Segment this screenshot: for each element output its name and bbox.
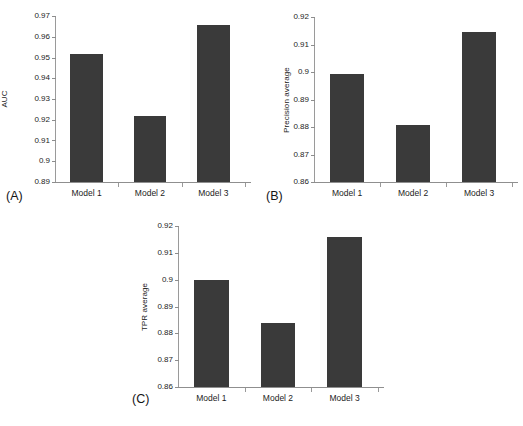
y-axis-tick-mark <box>175 333 179 334</box>
y-axis-tick-mark <box>52 140 56 141</box>
y-axis-tick-mark <box>311 45 315 46</box>
y-axis-tick-mark <box>52 120 56 121</box>
x-axis-tick-mark <box>378 388 379 392</box>
y-axis-title: Precision average <box>282 67 291 133</box>
bar <box>70 54 103 182</box>
x-axis-tick-mark <box>118 183 119 187</box>
y-axis-tick-label: 0.92 <box>293 13 309 21</box>
y-axis-tick-label: 0.87 <box>157 356 173 364</box>
y-axis-title: AUC <box>0 90 9 107</box>
y-axis-tick-label: 0.89 <box>157 303 173 311</box>
bar <box>197 25 230 182</box>
y-axis-tick-mark <box>52 182 56 183</box>
bar <box>194 280 229 387</box>
bar <box>134 116 167 182</box>
x-axis-line <box>314 182 518 183</box>
y-axis-tick-label: 0.94 <box>34 74 50 82</box>
y-axis-tick-label: 0.91 <box>293 41 309 49</box>
y-axis-tick-mark <box>311 155 315 156</box>
bar <box>330 74 364 182</box>
y-axis-tick-label: 0.9 <box>162 276 173 284</box>
y-axis-tick-label: 0.9 <box>298 68 309 76</box>
y-axis-tick-label: 0.91 <box>157 249 173 257</box>
y-axis-tick-mark <box>175 360 179 361</box>
y-axis-tick-mark <box>311 100 315 101</box>
y-axis-tick-label: 0.91 <box>34 137 50 145</box>
y-axis-tick-mark <box>311 72 315 73</box>
plot-area-b: 0.920.910.90.890.880.870.86Precision ave… <box>262 0 523 213</box>
x-axis-tick-mark <box>512 183 513 187</box>
bar <box>327 237 362 387</box>
x-axis-category-label: Model 2 <box>380 189 446 198</box>
y-axis-tick-mark <box>52 78 56 79</box>
panel-tag-a: (A) <box>6 190 23 203</box>
x-axis-tick-mark <box>311 388 312 392</box>
y-axis-tick-mark <box>52 37 56 38</box>
y-axis-tick-label: 0.88 <box>293 123 309 131</box>
y-axis-tick-label: 0.97 <box>34 12 50 20</box>
y-axis-tick-label: 0.92 <box>157 222 173 230</box>
x-axis-category-label: Model 3 <box>446 189 512 198</box>
plot-area-a: 0.970.960.950.940.930.920.910.90.89AUCMo… <box>0 0 262 213</box>
y-axis-tick-mark <box>175 387 179 388</box>
y-axis-tick-label: 0.92 <box>34 116 50 124</box>
bar <box>396 125 430 182</box>
y-axis-tick-label: 0.88 <box>157 329 173 337</box>
plot-area-c: 0.920.910.90.890.880.870.86TPR averageMo… <box>130 213 395 426</box>
y-axis-tick-label: 0.89 <box>34 178 50 186</box>
y-axis-tick-label: 0.93 <box>34 95 50 103</box>
y-axis-tick-mark <box>52 58 56 59</box>
x-axis-tick-mark <box>245 388 246 392</box>
y-axis-tick-label: 0.86 <box>293 178 309 186</box>
panel-tag-c: (C) <box>132 393 149 406</box>
y-axis-tick-mark <box>175 253 179 254</box>
bar <box>462 32 496 182</box>
x-axis-category-label: Model 3 <box>182 189 245 198</box>
y-axis-tick-mark <box>175 226 179 227</box>
panel-tag-b: (B) <box>266 190 283 203</box>
y-axis-tick-label: 0.87 <box>293 151 309 159</box>
x-axis-category-label: Model 1 <box>55 189 118 198</box>
y-axis-tick-mark <box>311 182 315 183</box>
y-axis-tick-label: 0.86 <box>157 383 173 391</box>
chart-panel-a: 0.970.960.950.940.930.920.910.90.89AUCMo… <box>0 0 262 213</box>
x-axis-tick-mark <box>380 183 381 187</box>
x-axis-line <box>178 387 384 388</box>
y-axis-tick-label: 0.9 <box>39 157 50 165</box>
y-axis-tick-mark <box>52 99 56 100</box>
chart-panel-b: 0.920.910.90.890.880.870.86Precision ave… <box>262 0 523 213</box>
x-axis-tick-mark <box>182 183 183 187</box>
y-axis-title: TPR average <box>140 282 149 330</box>
y-axis-tick-label: 0.96 <box>34 33 50 41</box>
y-axis-tick-mark <box>311 17 315 18</box>
y-axis-tick-mark <box>52 161 56 162</box>
chart-panel-c: 0.920.910.90.890.880.870.86TPR averageMo… <box>130 213 395 426</box>
y-axis-tick-label: 0.95 <box>34 54 50 62</box>
y-axis-tick-label: 0.89 <box>293 96 309 104</box>
x-axis-line <box>55 182 251 183</box>
x-axis-category-label: Model 2 <box>245 394 312 403</box>
bar <box>261 323 296 387</box>
x-axis-category-label: Model 2 <box>118 189 181 198</box>
y-axis-tick-mark <box>175 280 179 281</box>
y-axis-tick-mark <box>52 16 56 17</box>
y-axis-tick-mark <box>311 127 315 128</box>
x-axis-category-label: Model 3 <box>311 394 378 403</box>
x-axis-tick-mark <box>446 183 447 187</box>
x-axis-category-label: Model 1 <box>314 189 380 198</box>
x-axis-category-label: Model 1 <box>178 394 245 403</box>
y-axis-tick-mark <box>175 307 179 308</box>
x-axis-tick-mark <box>245 183 246 187</box>
